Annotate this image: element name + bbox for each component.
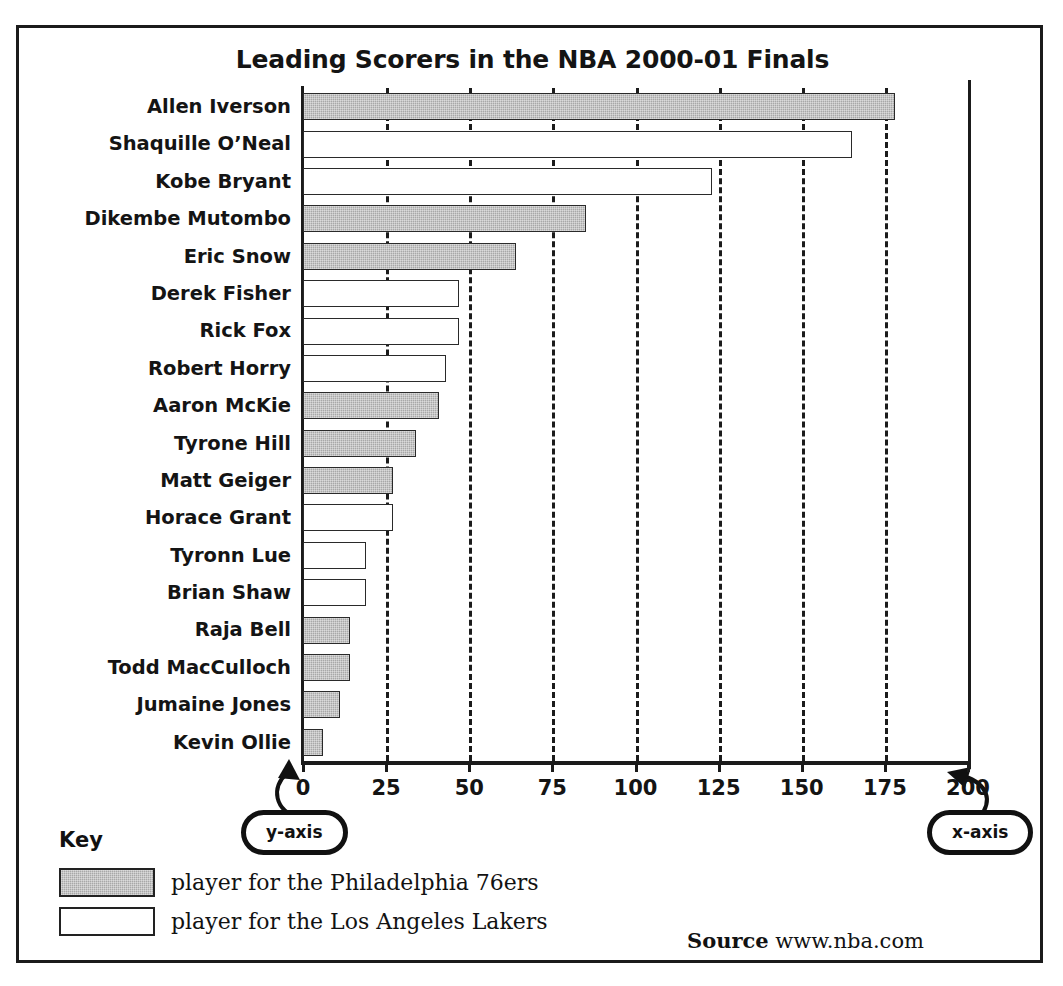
bar-row: Dikembe Mutombo [303, 200, 968, 237]
bar [303, 280, 459, 307]
source-label: Source [687, 928, 769, 953]
bar-row: Kobe Bryant [303, 163, 968, 200]
category-label: Matt Geiger [31, 462, 291, 499]
tick-mark-25 [385, 761, 388, 772]
category-label: Kevin Ollie [31, 724, 291, 761]
chart-frame: Leading Scorers in the NBA 2000-01 Final… [16, 25, 1043, 963]
bar-row: Robert Horry [303, 350, 968, 387]
category-label: Brian Shaw [31, 574, 291, 611]
legend-title: Key [59, 828, 548, 852]
legend: Key player for the Philadelphia 76erspla… [59, 828, 548, 946]
page-title: Leading Scorers in the NBA 2000-01 Final… [19, 45, 1046, 74]
bar [303, 430, 416, 457]
bar-row: Aaron McKie [303, 387, 968, 424]
legend-swatch-sixers [59, 868, 155, 897]
bar-row: Tyrone Hill [303, 425, 968, 462]
category-label: Eric Snow [31, 238, 291, 275]
category-label: Horace Grant [31, 499, 291, 536]
category-label: Todd MacCulloch [31, 649, 291, 686]
bar-row: Matt Geiger [303, 462, 968, 499]
category-label: Aaron McKie [31, 387, 291, 424]
bar [303, 243, 516, 270]
bar [303, 168, 712, 195]
x-tick-label-125: 125 [684, 776, 754, 800]
bar [303, 93, 895, 120]
legend-label: player for the Philadelphia 76ers [171, 870, 539, 895]
legend-label: player for the Los Angeles Lakers [171, 909, 548, 934]
bar [303, 467, 393, 494]
legend-swatch-lakers [59, 907, 155, 936]
x-tick-label-175: 175 [850, 776, 920, 800]
category-label: Robert Horry [31, 350, 291, 387]
gridline-200 [968, 80, 971, 769]
tick-mark-75 [551, 761, 554, 772]
category-label: Dikembe Mutombo [31, 200, 291, 237]
bar [303, 729, 323, 756]
bar [303, 392, 439, 419]
x-tick-label-50: 50 [434, 776, 504, 800]
tick-mark-125 [718, 761, 721, 772]
plot-area: Allen IversonShaquille O’NealKobe Bryant… [303, 88, 968, 761]
bar-row: Jumaine Jones [303, 686, 968, 723]
x-tick-label-25: 25 [351, 776, 421, 800]
bar [303, 205, 586, 232]
category-label: Jumaine Jones [31, 686, 291, 723]
bar-row: Derek Fisher [303, 275, 968, 312]
x-tick-label-150: 150 [767, 776, 837, 800]
bar [303, 355, 446, 382]
tick-mark-100 [635, 761, 638, 772]
category-label: Derek Fisher [31, 275, 291, 312]
bar [303, 542, 366, 569]
tick-mark-175 [884, 761, 887, 772]
bar-row: Allen Iverson [303, 88, 968, 125]
bar [303, 617, 350, 644]
category-label: Shaquille O’Neal [31, 125, 291, 162]
category-label: Raja Bell [31, 611, 291, 648]
category-label: Tyrone Hill [31, 425, 291, 462]
category-label: Tyronn Lue [31, 537, 291, 574]
legend-item: player for the Philadelphia 76ers [59, 868, 548, 897]
bar-row: Todd MacCulloch [303, 649, 968, 686]
bar-row: Shaquille O’Neal [303, 125, 968, 162]
source-note: Source www.nba.com [687, 928, 924, 953]
tick-mark-50 [468, 761, 471, 772]
bar [303, 579, 366, 606]
bar [303, 654, 350, 681]
x-tick-label-200: 200 [933, 776, 1003, 800]
bar-row: Rick Fox [303, 312, 968, 349]
bar-row: Horace Grant [303, 499, 968, 536]
category-label: Allen Iverson [31, 88, 291, 125]
category-label: Kobe Bryant [31, 163, 291, 200]
x-tick-label-100: 100 [601, 776, 671, 800]
bar-row: Kevin Ollie [303, 724, 968, 761]
bar [303, 504, 393, 531]
bar [303, 131, 852, 158]
bar-row: Brian Shaw [303, 574, 968, 611]
tick-mark-200 [967, 761, 970, 772]
tick-mark-150 [801, 761, 804, 772]
bar-row: Eric Snow [303, 238, 968, 275]
bar-row: Tyronn Lue [303, 537, 968, 574]
source-value: www.nba.com [775, 929, 924, 953]
bar [303, 318, 459, 345]
callout-x-axis: x-axis [927, 810, 1033, 855]
x-tick-label-75: 75 [517, 776, 587, 800]
bar [303, 691, 340, 718]
legend-item: player for the Los Angeles Lakers [59, 907, 548, 936]
tick-mark-0 [302, 761, 305, 772]
category-label: Rick Fox [31, 312, 291, 349]
bar-row: Raja Bell [303, 611, 968, 648]
x-tick-label-0: 0 [268, 776, 338, 800]
